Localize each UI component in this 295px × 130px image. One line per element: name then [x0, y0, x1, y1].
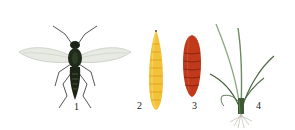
plant-figure — [208, 18, 278, 130]
figure-label-3: 3 — [192, 101, 197, 111]
pupa-figure — [180, 33, 204, 99]
figure-label-2: 2 — [137, 101, 142, 111]
insect-life-cycle-illustration: 1 2 — [0, 0, 295, 130]
figure-label-1: 1 — [74, 102, 79, 112]
figure-label-4: 4 — [256, 101, 261, 111]
adult-fly-figure — [15, 12, 135, 112]
larva-figure — [145, 28, 167, 112]
